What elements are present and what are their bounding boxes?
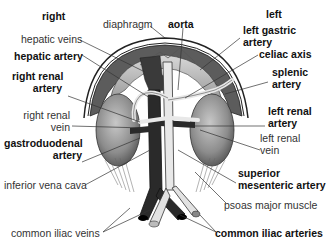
common-iliac-arteries-label: common iliac arteries	[215, 227, 323, 239]
splenic-artery-label: splenic artery	[272, 66, 308, 90]
hepatic-veins-label: hepatic veins	[21, 33, 82, 45]
left-gastric-artery-label: left gastric artery	[243, 24, 296, 48]
orientation-left-label: left	[266, 8, 282, 20]
right-iliac-vein-end	[138, 215, 148, 221]
left-renal-artery-label: left renal artery	[268, 105, 312, 129]
superior-mesenteric-artery-line1: superior	[238, 167, 280, 179]
right-renal-artery-line1: right renal	[12, 70, 63, 82]
left-gastric-artery-line1: left gastric	[243, 24, 296, 36]
inferior-vena-cava	[140, 90, 162, 220]
aorta-label: aorta	[168, 18, 194, 30]
splenic-artery-line1: splenic	[272, 66, 308, 78]
right-renal-vein-line1: right renal	[23, 109, 70, 121]
gastroduodenal-artery-line1: gastroduodenal	[4, 137, 83, 149]
diaphragm-label: diaphragm	[103, 18, 153, 30]
left-renal-artery-line1: left renal	[268, 105, 312, 117]
left-kidney	[190, 94, 234, 166]
left-renal-vein-line2: vein	[260, 144, 279, 156]
superior-mesenteric-artery-label: superior mesenteric artery	[238, 167, 326, 191]
right-renal-vein-line2: vein	[51, 121, 70, 133]
gastroduodenal-artery-label: gastroduodenal artery	[4, 137, 82, 161]
celiac-axis-label: celiac axis	[259, 48, 312, 60]
left-renal-vein-line1: left renal	[260, 132, 300, 144]
psoas-major-muscle-label: psoas major muscle	[224, 199, 317, 211]
splenic-artery-line2: artery	[272, 78, 301, 90]
inferior-vena-cava-label: inferior vena cava	[4, 179, 87, 191]
hepatic-artery-label: hepatic artery	[14, 50, 83, 62]
common-iliac-veins-label: common iliac veins	[11, 227, 100, 239]
superior-mesenteric-artery-line2: mesenteric artery	[238, 179, 326, 191]
left-gastric-artery-line2: artery	[243, 36, 272, 48]
left-renal-artery-line2: artery	[268, 117, 297, 129]
orientation-right-label: right	[42, 10, 65, 22]
aorta	[163, 62, 174, 190]
left-iliac-vein-end	[177, 214, 187, 220]
right-renal-artery-line2: artery	[33, 82, 62, 94]
left-renal-vein-label: left renal vein	[260, 132, 300, 156]
anatomy-diagram: right diaphragm aorta hepatic veins hepa…	[0, 0, 326, 242]
right-renal-artery-label: right renal artery	[12, 70, 62, 94]
right-renal-vein-label: right renal vein	[20, 109, 70, 133]
gastroduodenal-artery-line2: artery	[53, 149, 82, 161]
